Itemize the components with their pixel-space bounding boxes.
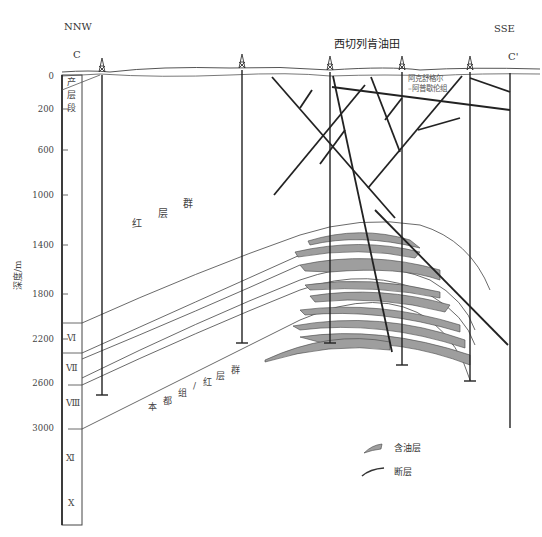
legend-oil-symbol — [364, 444, 382, 453]
tick-3000: 3000 — [20, 424, 54, 433]
akchagyl-label-2: –阿普歇伦组 — [408, 85, 447, 93]
tick-1400: 1400 — [20, 241, 54, 250]
direction-right: SSE — [494, 24, 515, 34]
lower-group-char: 层 — [216, 372, 225, 381]
akchagyl-label-1: 阿克舒格尔 — [408, 75, 443, 83]
legend-fault-symbol — [362, 468, 384, 476]
unit-X: Ⅹ — [68, 499, 74, 508]
unit-VII: Ⅶ — [66, 364, 78, 373]
lower-group-char: 组 — [178, 389, 187, 398]
section-mark-right: C' — [508, 52, 518, 62]
tick-2600: 2600 — [20, 379, 54, 388]
unit-VI: Ⅵ — [67, 334, 76, 343]
depth-axis-label: 深度/m — [14, 260, 23, 290]
tick-200: 200 — [20, 105, 54, 114]
lower-group-char: 红 — [203, 378, 212, 387]
lower-group-char: 都 — [163, 397, 172, 406]
lower-group-char: 群 — [231, 366, 240, 375]
column-top-unit-char: 产 — [67, 78, 76, 87]
column-top-unit-char: 段 — [67, 104, 76, 113]
unit-VIII: Ⅷ — [66, 399, 80, 408]
tick-600: 600 — [20, 146, 54, 155]
section-mark-left: C — [73, 50, 81, 60]
column-top-unit-char: 层 — [67, 91, 76, 100]
legend-fault-label: 断层 — [394, 468, 412, 477]
legend-oil-layer-label: 含油层 — [394, 444, 421, 453]
lower-group-char: 本 — [148, 403, 157, 412]
direction-left: NNW — [64, 22, 92, 32]
tick-0: 0 — [20, 72, 54, 81]
red-group-char: 层 — [158, 209, 168, 219]
cross-section-drawing — [0, 0, 542, 537]
tick-2200: 2200 — [20, 335, 54, 344]
surface-line-lower — [62, 74, 540, 77]
wells — [96, 70, 510, 428]
red-group-char: 红 — [132, 219, 142, 229]
red-group-char: 群 — [183, 199, 193, 209]
tick-1800: 1800 — [20, 290, 54, 299]
unit-XI: Ⅺ — [66, 454, 75, 463]
oil-layers — [265, 233, 470, 365]
field-title: 西切列肯油田 — [334, 39, 400, 50]
lower-group-char: / — [193, 382, 196, 391]
surface-line — [62, 67, 540, 72]
tick-1000: 1000 — [20, 191, 54, 200]
